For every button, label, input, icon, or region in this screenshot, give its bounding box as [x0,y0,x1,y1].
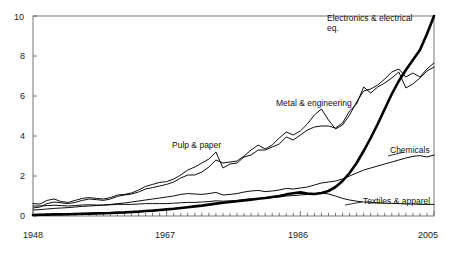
line-chart-plot [0,0,453,253]
series-label-textiles-apparel: Textiles & apparel [363,196,430,206]
plot-frame [33,16,434,216]
series-label-chemicals: Chemicals [390,145,430,155]
x-tick-label-1986: 1986 [288,230,308,240]
y-tick-label-4: 4 [20,131,25,141]
series-label-pulp-paper: Pulp & paper [172,140,221,150]
x-tick-label-1967: 1967 [155,230,175,240]
y-tick-label-0: 0 [20,211,25,221]
x-tick-label-2005: 2005 [418,230,438,240]
annotation-leader-line [345,202,362,205]
y-tick-label-2: 2 [20,171,25,181]
series-label-electronics-electrical-eq: Electronics & electrical eq. [327,13,423,33]
y-tick-label-8: 8 [20,51,25,61]
x-tick-label-1948: 1948 [23,230,43,240]
y-tick-label-6: 6 [20,91,25,101]
y-tick-label-10: 10 [14,12,24,22]
series-line-electronics-electrical-eq [33,16,434,215]
series-label-metal-engineering: Metal & engineering [276,98,352,108]
chart-container: 10 8 6 4 2 0 1948 1967 1986 2005 Electro… [0,0,453,253]
series-line-metal-engineering [33,63,434,208]
